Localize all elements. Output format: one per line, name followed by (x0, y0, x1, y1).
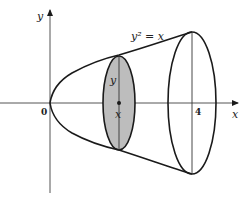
y-axis-label: y (36, 10, 44, 23)
slice-radius-label: y (109, 74, 117, 87)
x-axis-label: x (232, 108, 239, 121)
curve-equation-label: y² = x (130, 30, 165, 43)
tick-label-4: 4 (195, 107, 201, 117)
origin-label: 0 (41, 107, 47, 117)
slice-position-label: x (115, 108, 122, 121)
solid-of-revolution-diagram: y x 0 4 y² = x y x (0, 0, 246, 205)
slice-center-point (117, 101, 121, 105)
